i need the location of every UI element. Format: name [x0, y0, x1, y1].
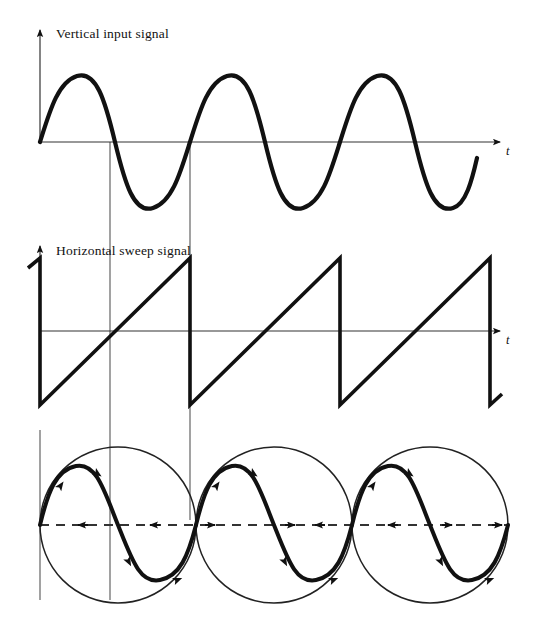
vertical-input-label: Vertical input signal — [56, 26, 169, 42]
panel-vertical-input — [40, 30, 500, 209]
guide-lines — [40, 142, 190, 600]
waveform-diagram-svg — [0, 0, 544, 641]
figure-canvas: Vertical input signal t Horizontal sweep… — [0, 0, 544, 641]
screen-sine-trace-1 — [40, 466, 196, 581]
screen-sine-trace-2 — [196, 466, 352, 581]
panel-horizontal-sweep — [28, 246, 502, 405]
time-axis-label-2: t — [506, 333, 509, 348]
screen-sine-trace-3 — [352, 466, 508, 581]
horizontal-sweep-label: Horizontal sweep signal — [56, 243, 191, 259]
time-axis-label-1: t — [506, 144, 509, 159]
